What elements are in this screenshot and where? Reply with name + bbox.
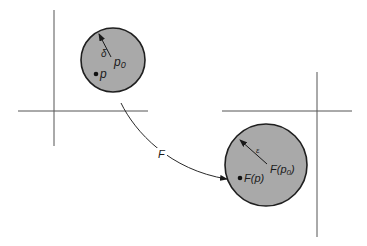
- point-fp-dot: [238, 176, 243, 181]
- p-label: p: [99, 67, 107, 81]
- target-disk: ε F(p0) F(p): [225, 124, 307, 206]
- mapping-F: F: [121, 103, 227, 179]
- epsilon-neighborhood-disk: [225, 124, 307, 206]
- mapping-arrow: [121, 103, 227, 179]
- epsilon-label: ε: [256, 146, 260, 155]
- f-p-label: F(p): [244, 172, 265, 184]
- domain-disk: δ p0 p: [81, 28, 145, 92]
- diagram-canvas: δ p0 p ε F(p0) F(p) F: [0, 0, 367, 246]
- diagram-svg: δ p0 p ε F(p0) F(p) F: [0, 0, 367, 246]
- point-p-dot: [94, 72, 99, 77]
- f-p0-label: F(p0): [270, 163, 295, 177]
- delta-label: δ: [101, 48, 107, 59]
- delta-neighborhood-disk: [81, 28, 145, 92]
